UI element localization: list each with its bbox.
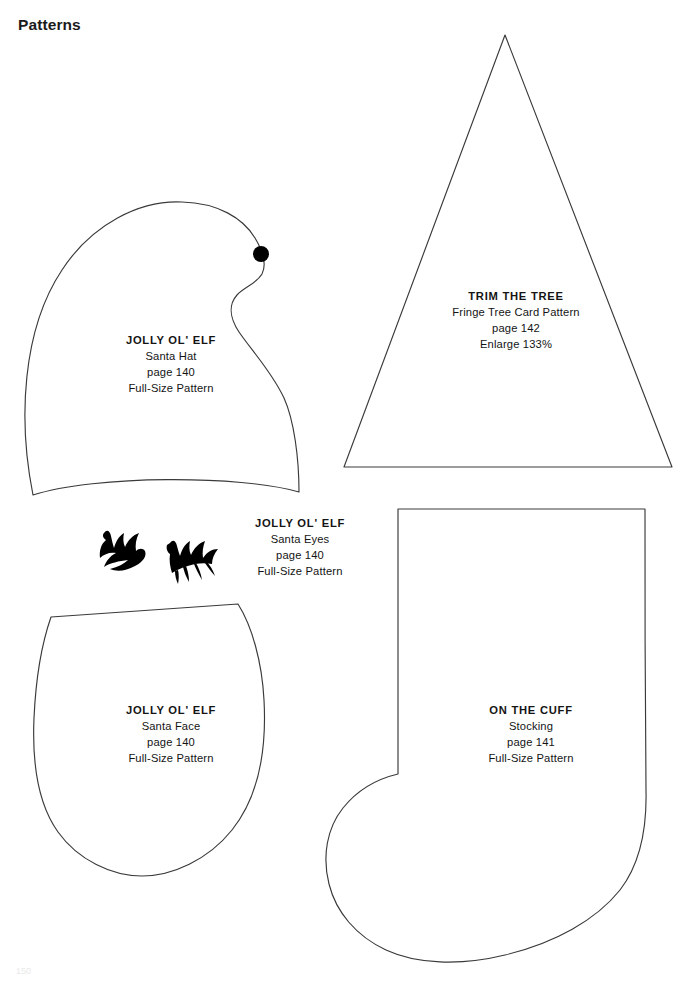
fringe-tree-label-line2: Fringe Tree Card Pattern [420,304,612,320]
stocking-label-note: Full-Size Pattern [446,750,616,766]
page-folio-number: 150 [16,966,31,976]
santa-hat-pompom-dot [253,246,269,262]
santa-eye-lash-4 [175,570,179,584]
stocking-label-page: page 141 [446,734,616,750]
fringe-tree-label: TRIM THE TREE Fringe Tree Card Pattern p… [420,288,612,352]
santa-face-label-title: JOLLY OL' ELF [86,702,256,718]
fringe-tree-label-title: TRIM THE TREE [420,288,612,304]
santa-eyes-label: JOLLY OL' ELF Santa Eyes page 140 Full-S… [230,515,370,579]
santa-eye-lash-3 [183,566,189,582]
santa-eyes-label-title: JOLLY OL' ELF [230,515,370,531]
santa-eyes-label-note: Full-Size Pattern [230,563,370,579]
pattern-canvas [0,0,674,984]
santa-face-label-note: Full-Size Pattern [86,750,256,766]
santa-hat-label-line2: Santa Hat [86,348,256,364]
fringe-tree-label-note: Enlarge 133% [420,336,612,352]
santa-hat-label-title: JOLLY OL' ELF [86,332,256,348]
pattern-sheet-page: Patterns JOLLY OL' ELF Santa Hat page 14… [0,0,674,984]
stocking-label: ON THE CUFF Stocking page 141 Full-Size … [446,702,616,766]
santa-eye-left-icon [100,531,146,571]
santa-eyes-label-page: page 140 [230,547,370,563]
stocking-label-title: ON THE CUFF [446,702,616,718]
santa-face-label: JOLLY OL' ELF Santa Face page 140 Full-S… [86,702,256,766]
fringe-tree-outline [344,35,672,467]
santa-eyes-label-line2: Santa Eyes [230,531,370,547]
santa-hat-label: JOLLY OL' ELF Santa Hat page 140 Full-Si… [86,332,256,396]
santa-face-label-line2: Santa Face [86,718,256,734]
santa-face-label-page: page 140 [86,734,256,750]
santa-hat-label-page: page 140 [86,364,256,380]
fringe-tree-label-page: page 142 [420,320,612,336]
santa-eyes-glyphs [100,531,218,584]
santa-eye-lash-2 [194,563,202,580]
santa-hat-label-note: Full-Size Pattern [86,380,256,396]
stocking-label-line2: Stocking [446,718,616,734]
